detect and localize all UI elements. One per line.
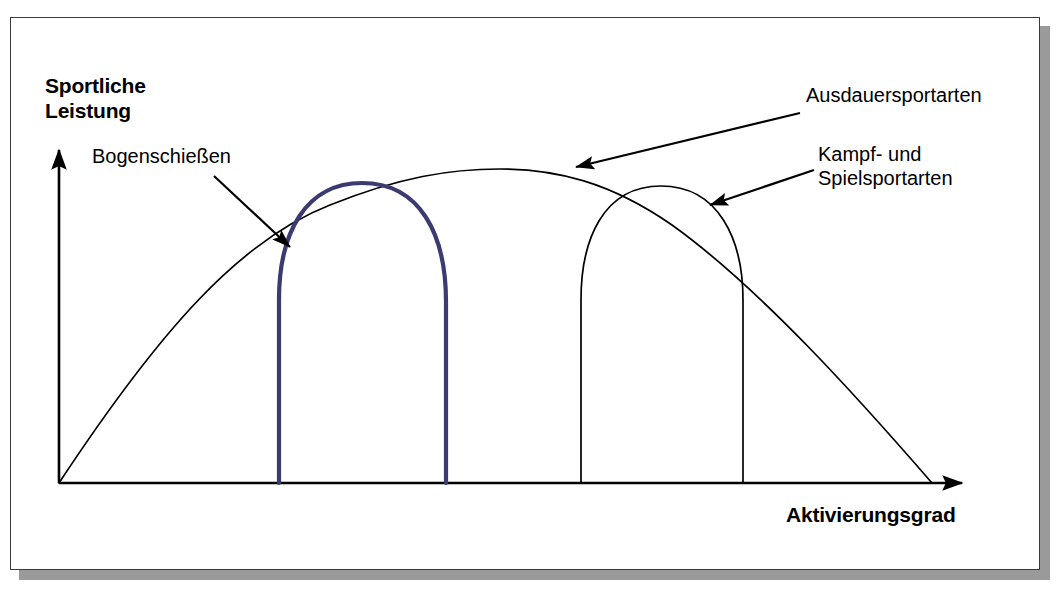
annotation-label-kampf-line2: Spielsportarten: [818, 167, 953, 189]
curve-bogenschiessen: [279, 183, 446, 483]
annotation-label-kampf-line1: Kampf- und: [818, 143, 921, 165]
curve-ausdauersportarten: [59, 169, 932, 483]
y-axis-title-line2: Leistung: [45, 99, 131, 122]
y-axis-title-line1: Sportliche: [45, 74, 146, 97]
y-axis-title: SportlicheLeistung: [45, 74, 146, 124]
arrow-kampf-und-spielsportarten: [710, 170, 814, 205]
arrow-ausdauersportarten: [576, 113, 800, 167]
curve-kampf-und-spielsportarten: [581, 186, 743, 483]
annotation-label-bogenschiessen: Bogenschießen: [92, 145, 231, 169]
figure-root: SportlicheLeistung Aktivierungsgrad Boge…: [0, 0, 1056, 595]
annotation-label-ausdauersportarten: Ausdauersportarten: [806, 84, 982, 108]
x-axis-title: Aktivierungsgrad: [786, 503, 956, 528]
annotation-label-kampf-und-spielsportarten: Kampf- undSpielsportarten: [818, 143, 953, 190]
axis-lines: [59, 150, 962, 483]
arrow-bogenschiessen: [214, 176, 290, 247]
